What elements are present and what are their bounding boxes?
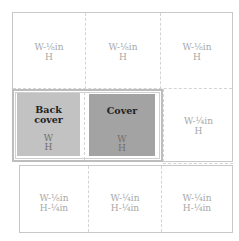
cell-width-label: W-⅛in [161,42,233,52]
cell-r3c3[interactable]: W-¼in H-¼in [162,193,232,213]
cell-width-label: W-¼in [89,193,161,203]
cell-r3c1[interactable]: W-⅛in H-¼in [20,193,88,213]
cell-height-label: H [13,52,85,62]
back-cover-height: H [44,143,53,152]
cell-r1c2[interactable]: W-⅛in H [86,42,160,62]
divider-h2 [163,163,233,164]
cell-height-label: H [164,126,233,136]
cell-height-label: H-¼in [162,203,232,213]
cell-r2c3[interactable]: W-¼in H [164,116,233,136]
back-cover-panel[interactable]: Back cover W H [17,93,80,156]
cell-width-label: W-⅛in [20,193,88,203]
cover-dims: W H [117,135,126,153]
cell-height-label: H-¼in [20,203,88,213]
cell-width-label: W-¼in [162,193,232,203]
back-cover-dims: W H [44,134,53,152]
back-cover-title-line2: cover [34,115,63,125]
cell-height-label: H [86,52,160,62]
cell-r3c2[interactable]: W-¼in H-¼in [89,193,161,213]
cover-height: H [117,144,126,153]
cell-r1c1[interactable]: W-⅛in H [13,42,85,62]
cell-r1c3[interactable]: W-⅛in H [161,42,233,62]
cell-width-label: W-⅛in [86,42,160,52]
cover-title: Cover [107,106,137,116]
back-cover-title: Back cover [34,105,63,125]
cell-height-label: H-¼in [89,203,161,213]
cover-panel[interactable]: Cover W H [89,94,155,156]
cell-width-label: W-⅛in [13,42,85,52]
cell-height-label: H [161,52,233,62]
cell-width-label: W-¼in [164,116,233,126]
